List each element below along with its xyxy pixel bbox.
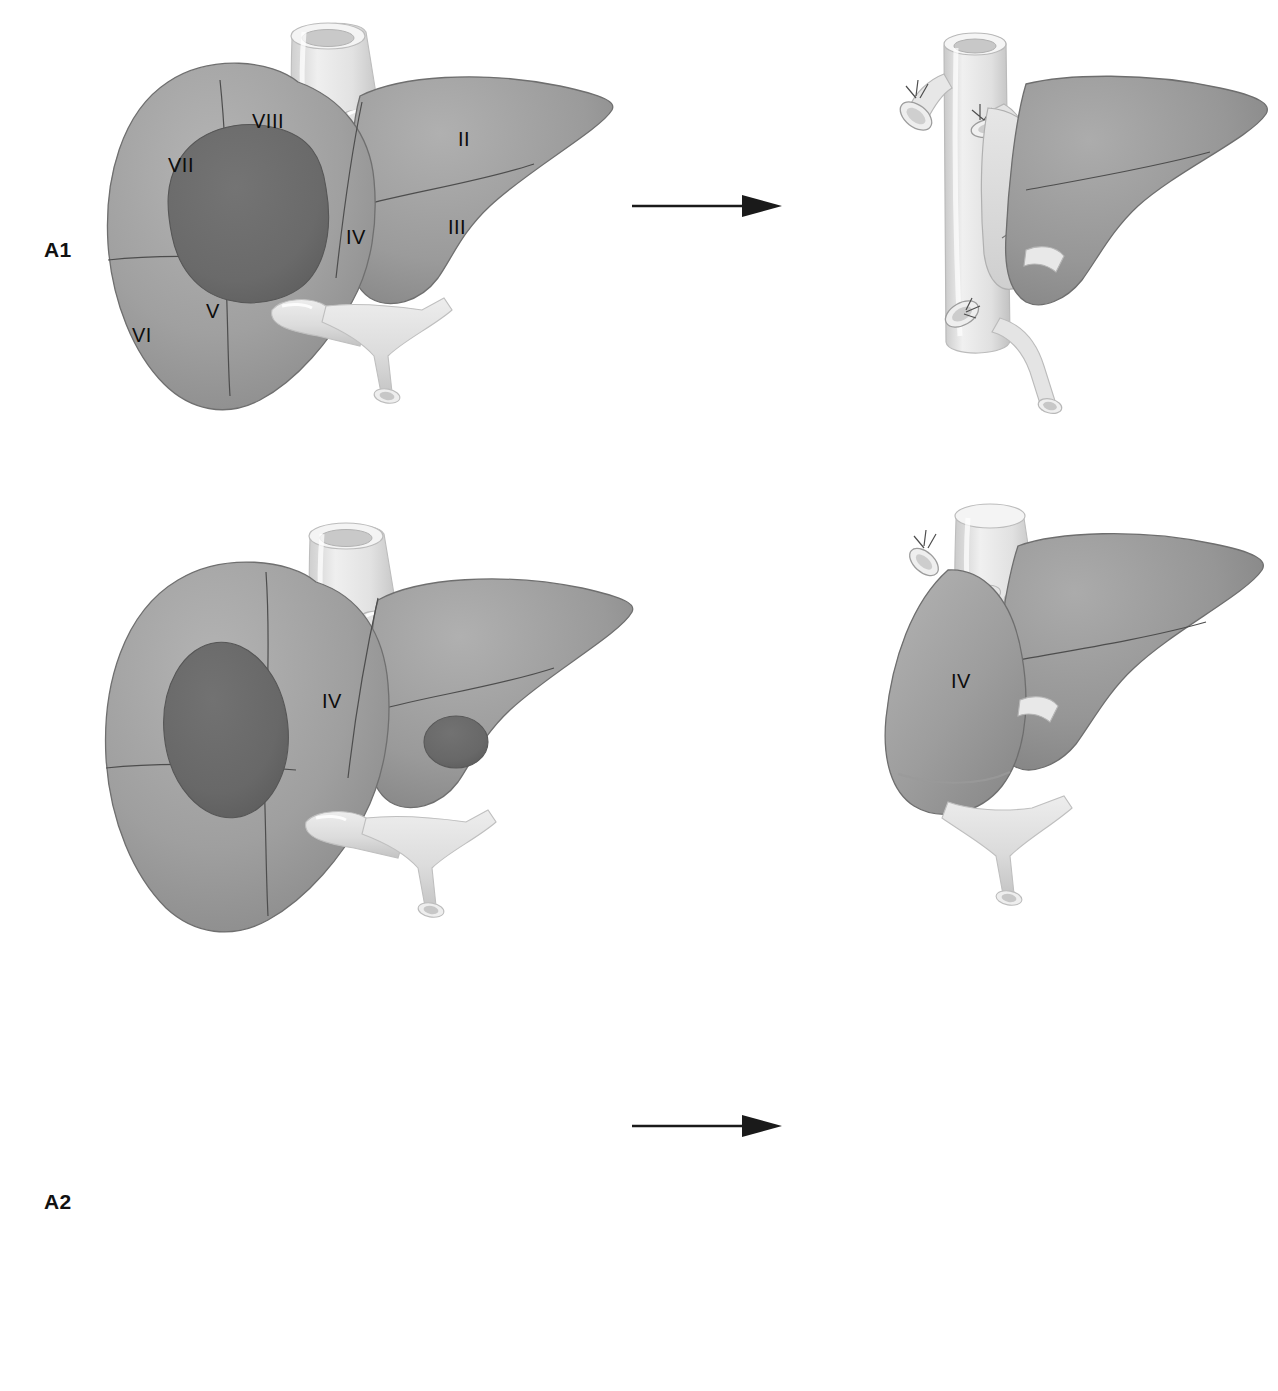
transition-arrow-a1 xyxy=(630,188,790,228)
segment-label-ii: II xyxy=(458,128,470,150)
remnant-left-liver xyxy=(994,534,1264,770)
portal-vein xyxy=(362,810,496,912)
segment-iv-remnant xyxy=(885,570,1026,814)
preoperative-liver-a1: VII VIII II III IV V VI xyxy=(60,10,620,450)
right-hepatic-lobe xyxy=(107,63,375,410)
gallbladder-and-portal-vein xyxy=(306,810,496,919)
liver-tumor-small xyxy=(424,716,488,768)
segment-label-vi: VI xyxy=(132,324,152,346)
segment-label-viii: VIII xyxy=(252,110,284,132)
left-hepatic-lobe xyxy=(368,579,633,808)
segment-label-v: V xyxy=(206,300,220,322)
segment-label-iv: IV xyxy=(951,670,971,692)
segment-label-iv: IV xyxy=(346,226,366,248)
segment-label-vii: VII xyxy=(168,154,194,176)
right-hepatic-lobe xyxy=(106,562,389,932)
figure-row-a1: A1 xyxy=(0,0,1278,460)
ligated-hepatic-vein-stump-upper xyxy=(895,74,952,136)
preoperative-liver-a2: IV xyxy=(60,520,640,940)
left-hepatic-lobe xyxy=(348,77,613,304)
liver-tumor xyxy=(168,125,329,303)
portal-vein xyxy=(992,318,1056,410)
liver-resection-figure: A1 xyxy=(0,0,1278,1391)
postoperative-remnant-a2: IV xyxy=(852,510,1272,920)
figure-row-a2: A2 xyxy=(0,460,1278,930)
suture-ligature xyxy=(914,530,936,548)
segment-label-iii: III xyxy=(448,216,466,238)
portal-vein xyxy=(942,796,1072,900)
postoperative-remnant-a1 xyxy=(880,18,1278,418)
portal-vein xyxy=(322,298,452,398)
segment-label-iv: IV xyxy=(322,690,342,712)
remnant-left-liver xyxy=(1006,76,1268,305)
ligated-hepatic-vein-stump xyxy=(905,530,944,581)
figure-row-a3: A3 xyxy=(0,930,1278,1391)
